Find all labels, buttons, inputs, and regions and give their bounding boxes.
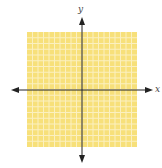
coordinate-plane: [0, 0, 162, 168]
x-axis-label: x: [155, 84, 160, 94]
y-axis-up-arrow-icon: [79, 17, 85, 25]
y-axis-down-arrow-icon: [79, 155, 85, 163]
x-axis-left-arrow-icon: [11, 87, 19, 93]
x-axis-right-arrow-icon: [145, 87, 153, 93]
y-axis-label: y: [78, 4, 83, 14]
